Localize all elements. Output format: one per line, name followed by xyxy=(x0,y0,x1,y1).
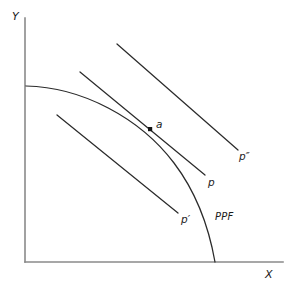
price-line-p-prime-label: p′ xyxy=(181,214,190,225)
ppf-diagram: Y X a p′ p p″ PPF xyxy=(0,0,290,290)
y-axis-label: Y xyxy=(12,11,19,22)
diagram-canvas xyxy=(0,0,290,290)
price-line-p-label: p xyxy=(208,177,215,188)
price-line-p-double-prime-label: p″ xyxy=(239,151,250,162)
ppf-curve-label: PPF xyxy=(215,212,233,222)
price-line-p xyxy=(80,72,205,175)
tangency-point-marker xyxy=(148,127,152,131)
ppf-curve xyxy=(26,86,215,262)
price-line-p-double-prime xyxy=(117,44,238,150)
x-axis-label: X xyxy=(265,269,273,280)
point-a-label: a xyxy=(156,119,162,130)
